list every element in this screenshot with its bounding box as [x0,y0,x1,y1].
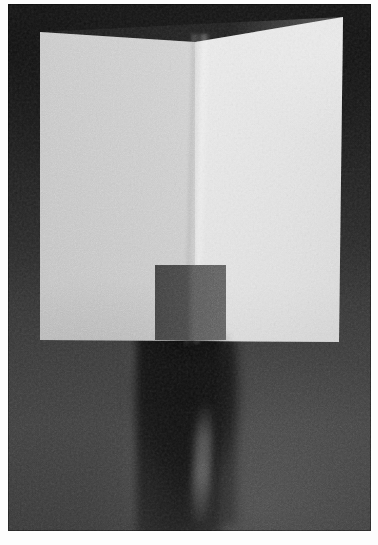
photo-page [0,0,378,545]
block-object [155,265,226,340]
photograph [8,4,371,531]
